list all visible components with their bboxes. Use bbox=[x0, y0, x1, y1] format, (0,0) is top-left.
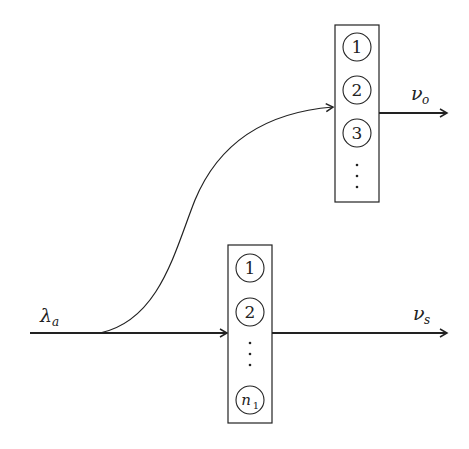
branch-curve bbox=[100, 107, 333, 333]
svg-text:n: n bbox=[241, 391, 251, 409]
svg-text:1: 1 bbox=[352, 37, 363, 57]
svg-text:2: 2 bbox=[352, 80, 363, 100]
svg-text:3: 3 bbox=[352, 123, 363, 143]
svg-text:a: a bbox=[52, 315, 59, 329]
upper-output-label: ν o bbox=[411, 82, 429, 107]
svg-text:2: 2 bbox=[245, 302, 256, 322]
svg-text:λ: λ bbox=[39, 304, 52, 326]
svg-text:1: 1 bbox=[253, 400, 259, 411]
input-label: λ a bbox=[39, 304, 59, 329]
lower-output-label: ν s bbox=[413, 302, 430, 327]
svg-text:o: o bbox=[422, 93, 429, 107]
svg-text:s: s bbox=[424, 313, 430, 327]
diagram-canvas: 1 2 3 1 2 n 1 λ a ν o ν s bbox=[0, 0, 469, 449]
svg-text:1: 1 bbox=[245, 258, 256, 278]
